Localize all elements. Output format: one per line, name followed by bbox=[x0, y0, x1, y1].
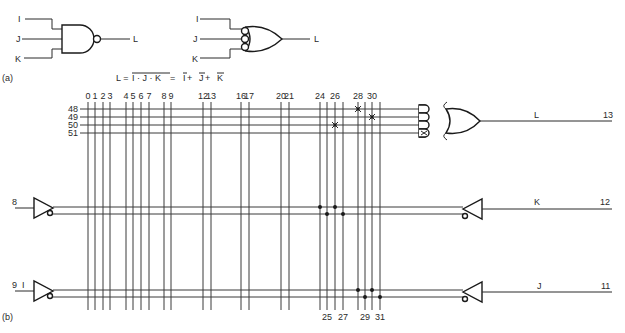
output-k-label: K bbox=[534, 197, 540, 207]
connection-dot bbox=[333, 205, 337, 209]
column-label-26: 26 bbox=[330, 91, 340, 101]
output-pin-11: 11 bbox=[601, 281, 610, 291]
nand-gate-body-icon bbox=[62, 25, 94, 53]
input-buffer-invert-bubble-icon bbox=[48, 294, 53, 299]
pla-output-buffer-k: K 12 bbox=[463, 197, 613, 219]
or-bubble-i-icon bbox=[242, 28, 249, 35]
output-buffer-j-enable-bubble-icon bbox=[463, 297, 468, 302]
equation-term-i: I bbox=[183, 73, 186, 83]
equation-lhs: L = bbox=[116, 73, 128, 83]
column-label-27: 27 bbox=[338, 312, 348, 322]
nand-gate-diagram: I J K L bbox=[15, 14, 138, 64]
fuse-center bbox=[371, 116, 374, 119]
column-label-9: 9 bbox=[168, 91, 173, 101]
or-wire-k bbox=[200, 49, 242, 58]
input-pin-8: 8 bbox=[12, 197, 17, 207]
pla-product-rows: 48495051 bbox=[68, 104, 419, 138]
input-pin-9: 9 bbox=[12, 280, 17, 290]
column-label-6: 6 bbox=[138, 91, 143, 101]
pla-output-l-label: L bbox=[534, 110, 539, 120]
column-label-13: 13 bbox=[206, 91, 216, 101]
nand-output-l-label: L bbox=[133, 34, 138, 44]
equation-plus-2: + bbox=[205, 73, 210, 83]
or-input-j-label: J bbox=[193, 34, 198, 44]
or-wire-i bbox=[200, 19, 242, 29]
connection-dot bbox=[325, 212, 329, 216]
pla-output-buffer-j: J 11 bbox=[463, 281, 613, 302]
nand-wire-i bbox=[25, 19, 62, 29]
equation: L = I · J · K = I + J + K bbox=[116, 73, 224, 83]
input-buffer-9: 9I bbox=[12, 280, 463, 301]
column-label-21: 21 bbox=[284, 91, 294, 101]
fuse-center bbox=[334, 124, 337, 127]
part-a-label: (a) bbox=[2, 73, 13, 83]
column-label-1: 1 bbox=[92, 91, 97, 101]
pla-bubble-50-icon bbox=[419, 121, 429, 129]
input-signal-I: I bbox=[22, 280, 25, 290]
pla-input-buffers: 89I bbox=[12, 197, 463, 301]
equation-equals: = bbox=[170, 73, 175, 83]
pla-output-pin-13: 13 bbox=[603, 110, 613, 120]
column-label-25: 25 bbox=[322, 312, 332, 322]
output-j-label: J bbox=[537, 281, 542, 291]
pla-bubble-48-icon bbox=[419, 105, 429, 113]
row-label-51: 51 bbox=[68, 128, 78, 138]
column-label-31: 31 bbox=[375, 312, 385, 322]
column-label-3: 3 bbox=[107, 91, 112, 101]
output-buffer-k-enable-bubble-icon bbox=[463, 214, 468, 219]
column-label-5: 5 bbox=[130, 91, 135, 101]
column-label-29: 29 bbox=[360, 312, 370, 322]
column-label-30: 30 bbox=[367, 91, 377, 101]
column-label-28: 28 bbox=[353, 91, 363, 101]
connection-dot bbox=[363, 295, 367, 299]
column-label-17: 17 bbox=[244, 91, 254, 101]
or-bubble-j-icon bbox=[242, 36, 249, 43]
column-label-2: 2 bbox=[100, 91, 105, 101]
column-label-0: 0 bbox=[85, 91, 90, 101]
or-input-i-label: I bbox=[196, 14, 199, 24]
connection-dot bbox=[318, 205, 322, 209]
nand-input-k-label: K bbox=[15, 54, 21, 64]
part-b-label: (b) bbox=[2, 312, 13, 322]
connection-dot bbox=[341, 212, 345, 216]
or-gate-body-icon bbox=[246, 27, 282, 52]
connection-dot bbox=[370, 288, 374, 292]
equation-plus-1: + bbox=[187, 73, 192, 83]
column-label-8: 8 bbox=[161, 91, 166, 101]
column-label-4: 4 bbox=[123, 91, 128, 101]
nand-wire-k bbox=[24, 49, 62, 58]
pla-or-bottom-stub bbox=[444, 133, 447, 140]
equation-term-j: J bbox=[199, 73, 204, 83]
equation-term-k: K bbox=[217, 73, 223, 83]
or-output-l-label: L bbox=[314, 34, 319, 44]
column-label-7: 7 bbox=[146, 91, 151, 101]
input-buffer-8: 8 bbox=[12, 197, 463, 218]
pla-or-gate: L 13 bbox=[419, 102, 613, 140]
fuse-center bbox=[357, 108, 360, 111]
nand-bubble-icon bbox=[94, 36, 101, 43]
equation-negated-product: I · J · K bbox=[132, 73, 161, 83]
pla-diagram: I J K L I J K L (a) L = I · J · K = I + bbox=[0, 0, 625, 333]
pla-or-top-stub bbox=[444, 102, 447, 109]
or-input-k-label: K bbox=[192, 54, 198, 64]
or-gate-inverted-diagram: I J K L bbox=[192, 14, 319, 64]
connection-dot bbox=[378, 295, 382, 299]
or-bubble-k-icon bbox=[242, 44, 249, 51]
column-label-24: 24 bbox=[315, 91, 325, 101]
pla-bubble-49-icon bbox=[419, 113, 429, 121]
nand-input-i-label: I bbox=[18, 14, 21, 24]
input-buffer-invert-bubble-icon bbox=[48, 211, 53, 216]
pla-or-gate-body-icon bbox=[446, 109, 480, 134]
nand-input-j-label: J bbox=[16, 34, 21, 44]
connection-dot bbox=[356, 288, 360, 292]
output-pin-12: 12 bbox=[600, 197, 610, 207]
